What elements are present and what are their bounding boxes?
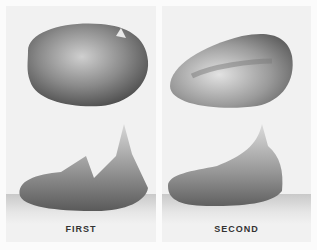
first-side-view	[19, 124, 148, 211]
panel-first: FIRST	[6, 6, 156, 242]
panel-second: SECOND	[162, 6, 311, 242]
first-object-drawings	[6, 6, 156, 242]
second-object-drawings	[162, 6, 311, 242]
label-first: FIRST	[6, 224, 156, 234]
label-second: SECOND	[162, 224, 311, 234]
first-top-view	[28, 23, 149, 106]
second-side-view	[168, 124, 282, 206]
second-top-view	[170, 34, 293, 108]
